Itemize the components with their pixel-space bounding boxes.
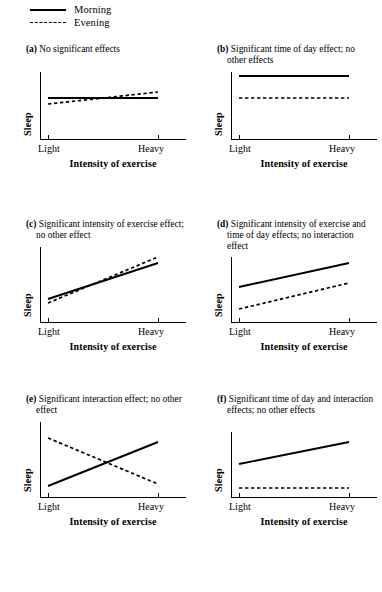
panel-e-tick-label-heavy: Heavy [138, 501, 164, 513]
panel-f-line-morning [239, 442, 349, 464]
panel-d-tick-label-light: Light [229, 326, 251, 338]
panel-d-x-label: Intensity of exercise [231, 341, 377, 352]
panel-d-y-label: Sleep [213, 293, 224, 317]
panel-f-plot [231, 432, 363, 498]
panel-c-title-line-1: Significant intensity of exercise [39, 219, 158, 229]
panel-a-title-line-1: No significant effects [39, 44, 120, 54]
panel-b-plot [231, 72, 363, 140]
panel-d-series [231, 257, 363, 323]
legend: Morning Evening [28, 3, 208, 29]
panel-c-tick-label-heavy: Heavy [138, 326, 164, 338]
legend-label-evening: Evening [74, 17, 110, 29]
panel-b-tag: (b) [217, 44, 228, 54]
panel-c-tag: (c) [26, 219, 36, 229]
legend-item-morning: Morning [28, 3, 208, 16]
panel-f-tick-label-light: Light [229, 501, 251, 513]
panel-a-x-label: Intensity of exercise [40, 158, 186, 169]
panel-d-title-line-1: Significant intensity of [231, 219, 317, 229]
panel-b-tick-label-light: Light [229, 143, 251, 155]
panel-f-x-label: Intensity of exercise [231, 516, 377, 527]
panel-c-title: (c) Significant intensity of exercise ef… [26, 219, 185, 241]
panel-d: (d) Significant intensity of exercise an… [191, 219, 382, 394]
panel-f-tag: (f) [217, 394, 226, 404]
panel-d-line-evening [239, 283, 349, 309]
panel-b-title: (b) Significant time of day effect; no o… [217, 44, 376, 66]
solid-line-icon [28, 5, 68, 15]
panel-e-line-morning [48, 442, 158, 486]
panel-c-x-label: Intensity of exercise [40, 341, 186, 352]
panel-d-plot [231, 257, 363, 323]
panel-b-series [231, 72, 363, 140]
panel-f: (f) Significant time of day and interact… [191, 394, 382, 569]
panel-e-x-label: Intensity of exercise [40, 516, 186, 527]
panel-a-tag: (a) [26, 44, 37, 54]
panel-d-tick-label-heavy: Heavy [329, 326, 355, 338]
legend-item-evening: Evening [28, 16, 208, 29]
panel-f-series [231, 432, 363, 498]
panel-a-y-label: Sleep [22, 112, 33, 136]
panel-e-title-line-1: Significant interaction effect; [39, 394, 149, 404]
panel-b-x-label: Intensity of exercise [231, 158, 377, 169]
panel-c-y-label: Sleep [22, 293, 33, 317]
panel-e-tick-label-light: Light [38, 501, 60, 513]
panel-c-plot [40, 247, 172, 323]
panel-a-plot [40, 72, 172, 140]
panel-b-tick-label-heavy: Heavy [329, 143, 355, 155]
panel-f-title-line-1: Significant time of day and [229, 394, 331, 404]
panel-c-series [40, 247, 172, 323]
panel-f-title: (f) Significant time of day and interact… [217, 394, 376, 416]
panel-a-title: (a) No significant effects [26, 44, 185, 55]
panel-row-1: (a) No significant effects Sleep Light H… [0, 44, 382, 219]
panel-b-title-line-1: Significant time of day effect; [231, 44, 343, 54]
panel-row-3: (e) Significant interaction effect; no o… [0, 394, 382, 569]
panel-b: (b) Significant time of day effect; no o… [191, 44, 382, 219]
panel-f-tick-label-heavy: Heavy [329, 501, 355, 513]
panel-a-series [40, 72, 172, 140]
panel-b-y-label: Sleep [213, 112, 224, 136]
panel-f-title-line-3: effects [290, 405, 315, 415]
panel-e-plot [40, 422, 172, 498]
panel-row-2: (c) Significant intensity of exercise ef… [0, 219, 382, 394]
panel-c: (c) Significant intensity of exercise ef… [0, 219, 191, 394]
panel-d-tag: (d) [217, 219, 228, 229]
panel-c-line-morning [48, 263, 158, 299]
panel-c-line-evening [48, 257, 158, 303]
legend-label-morning: Morning [74, 4, 111, 16]
dashed-line-icon [28, 18, 68, 28]
panel-e-tag: (e) [26, 394, 36, 404]
panel-e-title: (e) Significant interaction effect; no o… [26, 394, 185, 416]
panel-d-title: (d) Significant intensity of exercise an… [217, 219, 376, 253]
panel-e-line-evening [48, 438, 158, 484]
panel-a-tick-label-light: Light [38, 143, 60, 155]
panel-f-y-label: Sleep [213, 468, 224, 492]
panel-d-line-morning [239, 263, 349, 287]
panel-a-tick-label-heavy: Heavy [138, 143, 164, 155]
panel-e-series [40, 422, 172, 498]
panel-a: (a) No significant effects Sleep Light H… [0, 44, 191, 219]
panel-c-tick-label-light: Light [38, 326, 60, 338]
panel-e: (e) Significant interaction effect; no o… [0, 394, 191, 569]
panel-e-y-label: Sleep [22, 468, 33, 492]
panel-grid: (a) No significant effects Sleep Light H… [0, 44, 382, 569]
